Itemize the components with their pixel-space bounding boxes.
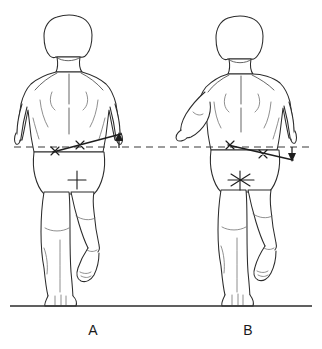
lifted-leg-b [248,190,276,251]
head-outline-a [44,15,92,58]
torso-outline-a [17,72,120,152]
pelvis-outline-b [210,150,279,192]
lifted-foot-a [77,248,99,282]
lifted-foot-b [254,246,276,281]
anatomical-figure: A B [0,0,322,349]
head-outline-b [216,16,263,60]
stance-foot-a [45,296,77,306]
panel-a-figure [15,15,123,306]
figure-canvas [0,0,322,349]
panel-label-b: B [233,322,263,338]
panel-label-a: A [78,322,108,338]
panel-b-figure [176,16,296,306]
arm-abducted-b [181,92,211,138]
torso-outline-b [196,74,294,150]
stance-leg-b [218,190,250,305]
stance-leg-a [41,192,73,305]
pelvis-outline-a [33,152,104,194]
stance-foot-b [222,295,254,306]
lifted-leg-a [71,192,99,253]
